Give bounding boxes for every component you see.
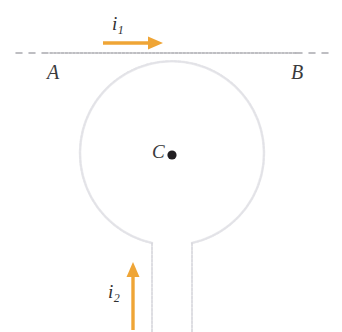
physics-diagram-figure: A B C i1 i2 [0, 0, 342, 332]
center-point-dot [167, 150, 176, 159]
current-arrow-i2 [127, 262, 140, 330]
label-current-i1-subscript: 1 [117, 23, 124, 37]
label-endpoint-a: A [47, 62, 60, 82]
current-arrow-i1 [103, 37, 163, 50]
label-current-i2-subscript: 2 [113, 291, 120, 305]
label-center-c: C [152, 142, 165, 161]
current-arrow-i2-head [127, 262, 140, 277]
current-arrow-i1-head [148, 37, 163, 50]
label-current-i1: i1 [112, 14, 124, 36]
diagram-canvas [0, 0, 342, 332]
lead-wires-group [152, 243, 192, 332]
label-current-i2: i2 [108, 282, 120, 304]
label-endpoint-b: B [291, 62, 304, 82]
